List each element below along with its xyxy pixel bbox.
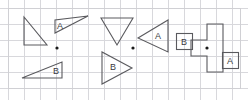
panel-middle: AB bbox=[101, 18, 168, 84]
square-b[interactable]: B bbox=[177, 34, 193, 50]
triangle-b-label: B bbox=[110, 62, 116, 72]
triangle-b[interactable]: B bbox=[102, 52, 132, 84]
figure-layer: ABABBA bbox=[0, 0, 248, 100]
triangle-b[interactable]: B bbox=[22, 62, 62, 78]
square-a[interactable]: A bbox=[223, 53, 239, 69]
worksheet-canvas: ABABBA Rotation of figures about a point bbox=[0, 0, 248, 100]
center-of-rotation-point[interactable] bbox=[205, 46, 208, 49]
triangle-b-outline bbox=[102, 52, 132, 84]
triangle-a-outline bbox=[138, 20, 168, 52]
panel-left: AB bbox=[22, 16, 88, 78]
triangle-preimage[interactable] bbox=[24, 17, 47, 45]
center-of-rotation-point[interactable] bbox=[55, 46, 58, 49]
triangle-a-label: A bbox=[155, 31, 161, 41]
triangle-a[interactable]: A bbox=[138, 20, 168, 52]
triangle-b-label: B bbox=[53, 66, 59, 76]
square-a-label: A bbox=[227, 56, 233, 66]
center-of-rotation-point[interactable] bbox=[131, 46, 134, 49]
triangle-a-label: A bbox=[57, 21, 63, 31]
triangle-a[interactable]: A bbox=[55, 16, 88, 33]
triangle-preimage-outline bbox=[24, 17, 47, 45]
panel-right: BA bbox=[177, 24, 239, 72]
triangle-preimage-outline bbox=[101, 18, 133, 45]
triangle-preimage[interactable] bbox=[101, 18, 133, 45]
square-b-label: B bbox=[181, 37, 187, 47]
